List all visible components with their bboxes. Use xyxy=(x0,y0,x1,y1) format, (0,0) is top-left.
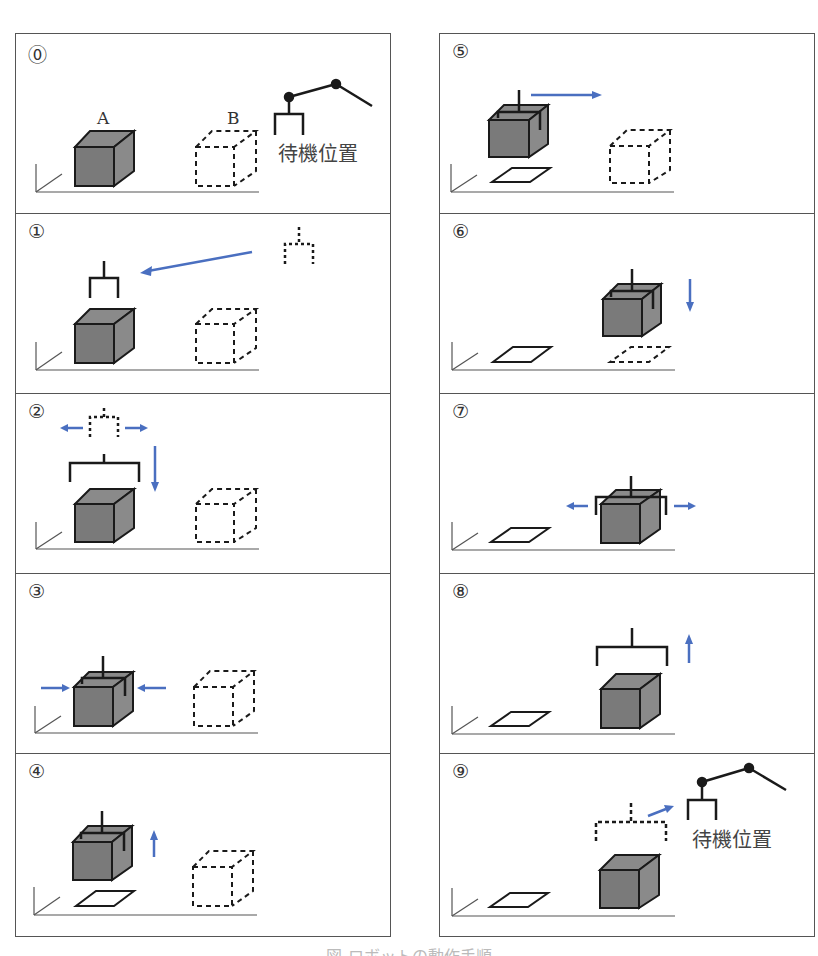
gripper-icon xyxy=(90,261,118,298)
box-a-carried-icon xyxy=(489,90,548,157)
floor-outline-icon xyxy=(76,891,134,906)
right-column: ⑤ ⑥ xyxy=(439,33,815,937)
box-a-placed-icon xyxy=(600,855,659,908)
axes-icon xyxy=(35,706,258,733)
box-a-icon xyxy=(75,131,134,186)
arrow-right-icon xyxy=(674,502,696,510)
robot-arm-icon xyxy=(275,80,372,135)
ghost-gripper-icon xyxy=(90,408,118,437)
box-a-label: A xyxy=(96,108,110,128)
standby-label: 待機位置 xyxy=(278,142,358,166)
step-8-diagram xyxy=(440,574,816,754)
figure-caption: 図 ロボットの動作手順 xyxy=(0,947,818,956)
step-5-diagram xyxy=(440,34,816,214)
arrow-up-icon xyxy=(685,634,693,663)
box-a-placed-icon xyxy=(596,476,666,543)
floor-outline-icon xyxy=(491,528,549,542)
step-7-diagram xyxy=(440,394,816,574)
step-panel-4: ④ xyxy=(16,754,390,934)
box-a-icon xyxy=(75,309,134,363)
floor-outline-icon xyxy=(493,347,551,362)
axes-icon xyxy=(451,164,674,192)
arrow-left-icon xyxy=(60,424,83,432)
axes-icon xyxy=(36,522,259,549)
step-panel-3: ③ xyxy=(16,574,390,754)
floor-outline-icon xyxy=(492,168,550,182)
ghost-gripper-icon xyxy=(596,803,666,841)
arrow-up-icon xyxy=(150,830,158,857)
step-1-diagram xyxy=(16,214,392,394)
box-a-lifted-icon xyxy=(73,811,132,880)
arrow-down-icon xyxy=(151,446,159,492)
target-b-icon xyxy=(196,309,256,363)
ghost-gripper-icon xyxy=(285,227,313,264)
arrow-left-icon xyxy=(566,502,588,510)
step-4-diagram xyxy=(16,754,392,936)
target-floor-outline-icon xyxy=(610,347,669,362)
step-panel-6: ⑥ xyxy=(440,214,814,394)
arrow-left-icon xyxy=(137,684,166,692)
robot-arm-icon xyxy=(688,764,786,820)
target-b-icon xyxy=(196,489,256,542)
box-a-placed-icon xyxy=(601,674,660,728)
step-panel-9: ⑨ xyxy=(440,754,814,934)
arrow-right-icon xyxy=(41,684,70,692)
arrow-down-icon xyxy=(686,279,694,312)
floor-outline-icon xyxy=(490,893,548,907)
target-b-icon xyxy=(610,130,670,183)
box-b-label: B xyxy=(227,108,240,128)
step-panel-1: ① xyxy=(16,214,390,394)
box-a-icon xyxy=(75,489,134,542)
step-panel-7: ⑦ xyxy=(440,394,814,574)
step-panel-8: ⑧ xyxy=(440,574,814,754)
arrow-right-icon xyxy=(125,424,148,432)
step-panel-0: ⓪ A B 待機位置 xyxy=(16,34,390,214)
target-b-icon xyxy=(194,671,254,726)
arrow-right-icon xyxy=(531,91,602,99)
open-gripper-icon xyxy=(597,628,667,666)
step-0-diagram: A B 待機位置 xyxy=(16,34,392,214)
step-9-diagram: 待機位置 xyxy=(440,754,816,936)
arrow-icon xyxy=(140,252,252,276)
floor-outline-icon xyxy=(491,712,549,726)
step-2-diagram xyxy=(16,394,392,574)
box-a-gripped-icon xyxy=(74,656,133,726)
step-6-diagram xyxy=(440,214,816,394)
box-a-lowering-icon xyxy=(603,269,661,336)
target-b-icon xyxy=(193,851,253,906)
step-3-diagram xyxy=(16,574,392,754)
target-b-icon xyxy=(196,131,256,186)
open-gripper-icon xyxy=(70,454,139,482)
axes-icon xyxy=(36,164,259,192)
axes-icon xyxy=(36,342,259,370)
left-column: ⓪ A B 待機位置 xyxy=(15,33,391,937)
step-panel-2: ② xyxy=(16,394,390,574)
standby-label: 待機位置 xyxy=(692,828,772,852)
step-panel-5: ⑤ xyxy=(440,34,814,214)
arrow-icon xyxy=(648,805,674,816)
axes-icon xyxy=(34,887,257,915)
